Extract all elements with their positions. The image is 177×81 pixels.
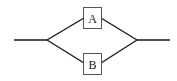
component-a-label: A [88, 12, 97, 26]
upper-branch-in [47, 18, 84, 40]
component-b-label: B [88, 58, 96, 72]
parallel-system-diagram: A B [0, 0, 177, 81]
component-a: A [84, 8, 102, 29]
component-b: B [84, 54, 102, 75]
upper-branch-out [101, 18, 137, 40]
lower-branch-out [101, 40, 137, 63]
lower-branch-in [47, 40, 84, 63]
